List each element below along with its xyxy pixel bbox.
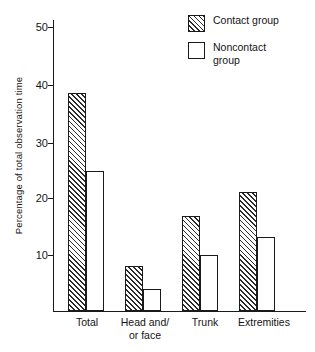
legend-item-contact-group: Contact group: [188, 14, 310, 32]
bar-head-noncontact: [143, 289, 161, 311]
bar-head-contact: [125, 266, 143, 311]
bar-total-contact: [68, 93, 86, 311]
legend-label-contact-group: Contact group: [213, 14, 279, 27]
x-category-extremities: Extremities: [226, 316, 302, 329]
legend: Contact group Noncontact group: [188, 14, 310, 75]
bar-trunk-noncontact: [200, 255, 218, 311]
bar-total-noncontact: [86, 171, 104, 311]
x-category-trunk: Trunk: [177, 316, 233, 329]
legend-item-noncontact-group: Noncontact group: [188, 41, 310, 66]
bar-chart: Percentage of total observation time 50 …: [0, 0, 315, 352]
x-category-total: Total: [59, 316, 115, 329]
legend-label-noncontact-group: Noncontact group: [213, 41, 266, 66]
legend-swatch-open-icon: [188, 42, 205, 59]
y-tick-label-30: 30: [24, 138, 48, 149]
bar-extremities-noncontact: [257, 237, 275, 311]
y-tick-label-50: 50: [24, 22, 48, 33]
legend-swatch-hatched-icon: [188, 15, 205, 32]
x-category-head-face: Head and/ or face: [109, 316, 181, 342]
bar-trunk-contact: [182, 216, 200, 311]
y-axis-tick-labels: 50 40 30 20 10: [22, 0, 48, 352]
x-axis-category-labels: Total Head and/ or face Trunk Extremitie…: [53, 316, 306, 352]
x-axis-line: [53, 311, 306, 312]
bar-extremities-contact: [239, 192, 257, 311]
y-tick-label-40: 40: [24, 80, 48, 91]
y-tick-label-20: 20: [24, 193, 48, 204]
y-tick-label-10: 10: [24, 250, 48, 261]
